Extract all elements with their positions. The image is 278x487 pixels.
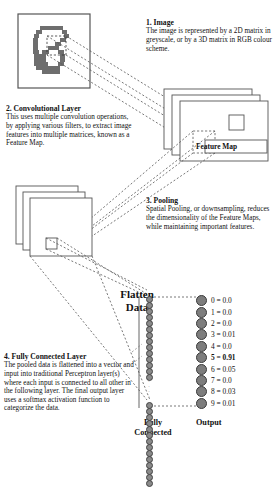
output-node-circle bbox=[196, 352, 207, 363]
input-image-box bbox=[18, 14, 90, 88]
output-node-label: 6 = 0.05 bbox=[211, 365, 236, 374]
output-node-circle bbox=[196, 295, 207, 306]
output-node-row: 4 = 0.0 bbox=[196, 341, 236, 352]
section-convolutional-layer-body: This uses multiple convolution operation… bbox=[6, 113, 134, 147]
output-node-list: 0 = 0.01 = 0.02 = 0.03 = 0.014 = 0.05 = … bbox=[196, 295, 236, 409]
output-node-circle bbox=[196, 318, 207, 329]
section-fully-connected-layer: 4. Fully Connected Layer The pooled data… bbox=[4, 352, 136, 413]
output-node-label: 7 = 0.0 bbox=[211, 376, 232, 385]
output-node-label: 5 = 0.91 bbox=[211, 353, 236, 362]
output-node-label: 0 = 0.0 bbox=[211, 296, 232, 305]
section-image: 1. Image The image is represented by a 2… bbox=[146, 18, 274, 53]
output-node-circle bbox=[196, 364, 207, 375]
output-node-row: 7 = 0.0 bbox=[196, 375, 236, 386]
output-node-circle bbox=[196, 329, 207, 340]
output-node-label: 8 = 0.03 bbox=[211, 387, 236, 396]
section-pooling: 3. Pooling Spatial Pooling, or downsampl… bbox=[146, 196, 274, 231]
output-node-circle bbox=[196, 386, 207, 397]
output-node-row: 5 = 0.91 bbox=[196, 352, 236, 363]
fully-connected-ellipsis: ···· bbox=[144, 380, 154, 402]
output-node-label: 2 = 0.0 bbox=[211, 319, 232, 328]
fully-connected-node-column: ···· bbox=[144, 296, 154, 486]
output-node-row: 2 = 0.0 bbox=[196, 318, 236, 329]
section-fully-connected-layer-heading: 4. Fully Connected Layer bbox=[4, 352, 136, 361]
output-node-circle bbox=[196, 375, 207, 386]
pooled-feature-stack bbox=[16, 186, 92, 256]
section-image-heading: 1. Image bbox=[146, 18, 274, 27]
output-node-row: 3 = 0.01 bbox=[196, 329, 236, 340]
section-pooling-heading: 3. Pooling bbox=[146, 196, 274, 205]
section-convolutional-layer: 2. Convolutional Layer This uses multipl… bbox=[6, 104, 134, 148]
flatten-data-label: Flatten Data bbox=[104, 288, 170, 313]
output-node-row: 9 = 0.01 bbox=[196, 398, 236, 409]
output-node-row: 6 = 0.05 bbox=[196, 363, 236, 374]
section-pooling-body: Spatial Pooling, or downsampling, reduce… bbox=[146, 205, 274, 231]
output-node-circle bbox=[196, 307, 207, 318]
output-node-label: 4 = 0.0 bbox=[211, 342, 232, 351]
pooled-cell bbox=[46, 238, 57, 249]
output-node-label: 1 = 0.0 bbox=[211, 308, 232, 317]
feature-map-cell bbox=[229, 115, 244, 130]
section-image-body: The image is represented by a 2D matrix … bbox=[146, 27, 274, 53]
feature-map-label: Feature Map bbox=[196, 142, 237, 151]
output-node-row: 8 = 0.03 bbox=[196, 386, 236, 397]
connector-lines-flatten-to-output bbox=[150, 297, 198, 406]
section-fully-connected-layer-body: The pooled data is flattened into a vect… bbox=[4, 361, 136, 413]
output-node-circle bbox=[196, 341, 207, 352]
output-node-row: 1 = 0.0 bbox=[196, 306, 236, 317]
output-node-label: 3 = 0.01 bbox=[211, 330, 236, 339]
output-node-circle bbox=[196, 398, 207, 409]
fully-connected-node bbox=[146, 480, 153, 487]
section-convolutional-layer-heading: 2. Convolutional Layer bbox=[6, 104, 134, 113]
output-label: Output bbox=[196, 418, 256, 427]
output-node-row: 0 = 0.0 bbox=[196, 295, 236, 306]
output-node-label: 9 = 0.01 bbox=[211, 399, 236, 408]
